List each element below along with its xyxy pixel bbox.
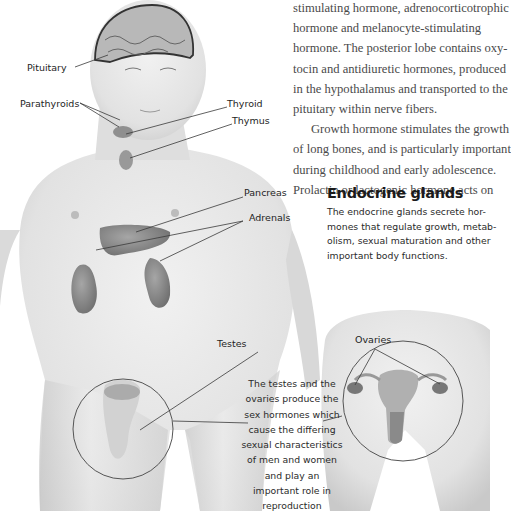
label-ovaries: Ovaries <box>355 334 391 345</box>
caption-line: sex hormones which <box>232 407 352 422</box>
body-line: during childhood and early adolescence. <box>293 160 493 180</box>
sex-hormones-caption: The testes and the ovaries produce the s… <box>232 376 352 511</box>
label-testes: Testes <box>217 338 247 349</box>
caption-line: reproduction <box>232 498 352 511</box>
label-thyroid: Thyroid <box>227 98 263 109</box>
sidebar-title: Endocrine glands <box>327 185 492 201</box>
body-line: Growth hormone stimulates the growth <box>293 119 493 139</box>
caption-line: and play an <box>232 468 352 483</box>
sidebar-line: The endocrine glands secrete hor- <box>327 205 492 220</box>
label-pituitary: Pituitary <box>27 62 67 73</box>
label-parathyroids: Parathyroids <box>20 98 79 109</box>
label-thymus: Thymus <box>232 115 270 126</box>
caption-line: The testes and the <box>232 376 352 391</box>
body-line: in the hypothalamus and transported to t… <box>293 79 493 99</box>
body-line: stimulating hormone, adrenocorticotrophi… <box>293 0 493 18</box>
caption-line: of men and women <box>232 452 352 467</box>
sidebar-line: olism, sexual maturation and other <box>327 234 492 249</box>
label-adrenals: Adrenals <box>249 212 290 223</box>
sidebar-line: important body functions. <box>327 249 492 264</box>
endocrine-glands-sidebar: Endocrine glands The endocrine glands se… <box>327 185 492 263</box>
body-text: stimulating hormone, adrenocorticotrophi… <box>293 0 493 200</box>
caption-line: ovaries produce the <box>232 391 352 406</box>
body-line: of long bones, and is particularly impor… <box>293 139 493 159</box>
body-line: hormone and melanocyte-stimulating <box>293 18 493 38</box>
body-line: pituitary within nerve fibers. <box>293 99 493 119</box>
label-pancreas: Pancreas <box>244 187 287 198</box>
caption-line: important role in <box>232 483 352 498</box>
body-line: hormone. The posterior lobe contains oxy… <box>293 38 493 58</box>
caption-line: sexual characteristics <box>232 437 352 452</box>
body-line: tocin and antidiuretic hormones, produce… <box>293 59 493 79</box>
caption-line: cause the differing <box>232 422 352 437</box>
sidebar-line: mones that regulate growth, metab- <box>327 220 492 235</box>
